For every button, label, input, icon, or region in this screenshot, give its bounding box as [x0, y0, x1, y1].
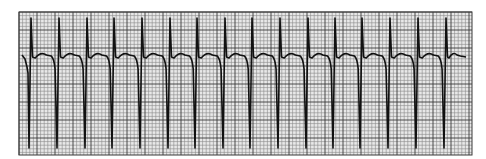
ecg-strip	[0, 0, 486, 159]
